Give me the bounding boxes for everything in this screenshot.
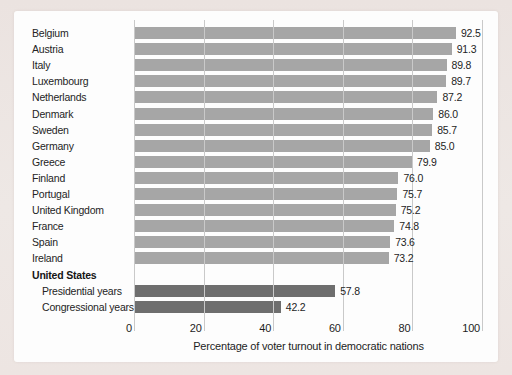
bar <box>134 124 432 136</box>
value-label: 75.2 <box>401 203 421 217</box>
bar <box>134 301 281 313</box>
chart-panel: Belgium92.5Austria91.3Italy89.8Luxembour… <box>14 11 498 362</box>
x-tick-label-40: 40 <box>237 322 271 335</box>
value-label: 85.0 <box>435 139 455 153</box>
value-label: 75.7 <box>402 187 422 201</box>
value-label: 91.3 <box>457 42 477 56</box>
row-label: Netherlands <box>32 90 86 104</box>
page-background: { "page": { "background_color": "#ebe3e0… <box>0 0 512 375</box>
chart-row: Luxembourg89.7 <box>14 73 498 90</box>
value-label: 89.8 <box>452 58 472 72</box>
chart-row: France74.8 <box>14 218 498 235</box>
chart-row: Congressional years42.2 <box>14 299 498 316</box>
value-label: 73.6 <box>395 235 415 249</box>
value-label: 73.2 <box>394 251 414 265</box>
chart-row: Netherlands87.2 <box>14 89 498 106</box>
bar <box>134 140 430 152</box>
gridline-40 <box>273 20 274 331</box>
chart-row: Ireland73.2 <box>14 250 498 267</box>
gridline-20 <box>204 20 205 331</box>
chart-row: Germany85.0 <box>14 138 498 155</box>
bar <box>134 236 390 248</box>
row-label: Germany <box>32 139 74 153</box>
bar <box>134 172 398 184</box>
chart-row: Presidential years57.8 <box>14 283 498 300</box>
x-tick-label-80: 80 <box>376 322 410 335</box>
value-label: 42.2 <box>286 300 306 314</box>
x-tick-label-0: 0 <box>98 322 132 335</box>
chart-row: Portugal75.7 <box>14 186 498 203</box>
row-label: Finland <box>32 171 65 185</box>
row-label: Congressional years <box>42 300 134 314</box>
row-label: Presidential years <box>42 284 122 298</box>
chart-row: Spain73.6 <box>14 234 498 251</box>
value-label: 76.0 <box>403 171 423 185</box>
value-label: 79.9 <box>417 155 437 169</box>
value-label: 85.7 <box>437 123 457 137</box>
value-label: 86.0 <box>438 107 458 121</box>
row-label: Ireland <box>32 251 63 265</box>
row-label: Luxembourg <box>32 74 88 88</box>
bar <box>134 220 394 232</box>
value-label: 87.2 <box>442 90 462 104</box>
x-tick-label-100: 100 <box>446 322 480 335</box>
bar <box>134 204 396 216</box>
gridline-100 <box>482 20 483 331</box>
gridline-0 <box>134 20 135 331</box>
bar <box>134 252 389 264</box>
bar <box>134 188 397 200</box>
row-label: Sweden <box>32 123 69 137</box>
bar <box>134 59 447 71</box>
group-header-label: United States <box>32 268 97 282</box>
value-label: 92.5 <box>461 26 481 40</box>
chart-row: Italy89.8 <box>14 57 498 74</box>
row-label: Austria <box>32 42 63 56</box>
chart-row: Greece79.9 <box>14 154 498 171</box>
row-label: France <box>32 219 63 233</box>
chart-row: Finland76.0 <box>14 170 498 187</box>
bar <box>134 43 452 55</box>
value-label: 74.8 <box>399 219 419 233</box>
row-label: Italy <box>32 58 50 72</box>
value-label: 89.7 <box>451 74 471 88</box>
value-label: 57.8 <box>340 284 360 298</box>
row-label: Belgium <box>32 26 69 40</box>
x-tick-label-60: 60 <box>307 322 341 335</box>
chart-row: Belgium92.5 <box>14 25 498 42</box>
chart-row: Denmark86.0 <box>14 106 498 123</box>
bar <box>134 75 446 87</box>
row-label: Portugal <box>32 187 70 201</box>
row-label: Greece <box>32 155 65 169</box>
chart-row: United Kingdom75.2 <box>14 202 498 219</box>
chart-row: United States <box>14 267 498 284</box>
bar <box>134 91 437 103</box>
chart-row: Sweden85.7 <box>14 122 498 139</box>
bar <box>134 285 335 297</box>
row-label: Denmark <box>32 107 73 121</box>
row-label: Spain <box>32 235 58 249</box>
bar <box>134 108 433 120</box>
x-axis-label: Percentage of voter turnout in democrati… <box>134 340 483 352</box>
chart-row: Austria91.3 <box>14 41 498 58</box>
x-tick-label-20: 20 <box>168 322 202 335</box>
bar <box>134 27 456 39</box>
row-label: United Kingdom <box>32 203 104 217</box>
